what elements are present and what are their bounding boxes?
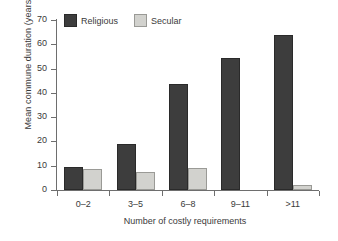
x-axis-tick-label: 0–2	[55, 199, 111, 209]
x-axis-tick	[267, 191, 268, 196]
legend-label-secular: Secular	[151, 16, 182, 26]
legend-label-religious: Religious	[81, 16, 118, 26]
chart-legend: ReligiousSecular	[64, 14, 182, 27]
y-axis-tick-label: 70	[20, 15, 47, 24]
y-axis-tick-label: 20	[20, 136, 47, 145]
y-axis-tick	[51, 20, 56, 21]
y-axis-tick-label: 60	[20, 39, 47, 48]
bar-chart-figure: Mean commune duration (years) 0102030405…	[0, 0, 338, 241]
y-axis-tick	[51, 166, 56, 167]
y-axis-tick	[51, 69, 56, 70]
x-axis-tick-label: 3–5	[108, 199, 164, 209]
y-axis-tick	[51, 44, 56, 45]
y-axis-tick-label: 0	[20, 185, 47, 194]
x-axis-title: Number of costly requirements	[40, 216, 330, 226]
x-axis-tick	[214, 191, 215, 196]
bar-religious-1	[117, 144, 136, 190]
y-axis-tick-label: 40	[20, 88, 47, 97]
bar-secular-1	[136, 172, 155, 190]
y-axis-tick-label: 10	[20, 161, 47, 170]
y-axis-tick	[51, 117, 56, 118]
x-axis-tick	[109, 191, 110, 196]
bar-religious-0	[64, 167, 83, 190]
legend-swatch-religious	[64, 14, 77, 27]
x-axis-tick	[319, 191, 320, 196]
x-axis-tick-label: >11	[265, 199, 321, 209]
x-axis-tick-label: 6–8	[160, 199, 216, 209]
y-axis-tick	[51, 141, 56, 142]
bar-secular-0	[83, 169, 102, 190]
bar-secular-2	[188, 168, 207, 190]
x-axis-tick-label: 9–11	[212, 199, 268, 209]
bar-religious-2	[169, 84, 188, 190]
legend-item-religious: Religious	[64, 14, 118, 27]
x-axis-tick	[162, 191, 163, 196]
legend-swatch-secular	[134, 14, 147, 27]
y-axis-tick	[51, 93, 56, 94]
bar-religious-4	[274, 35, 293, 190]
x-axis-line	[56, 190, 319, 191]
x-axis-tick	[57, 191, 58, 196]
y-axis-tick	[51, 190, 56, 191]
bar-secular-4	[293, 185, 312, 190]
y-axis-tick-label: 30	[20, 112, 47, 121]
legend-item-secular: Secular	[134, 14, 182, 27]
y-axis-tick-label: 50	[20, 64, 47, 73]
plot-area	[57, 20, 319, 190]
bar-religious-3	[221, 58, 240, 190]
